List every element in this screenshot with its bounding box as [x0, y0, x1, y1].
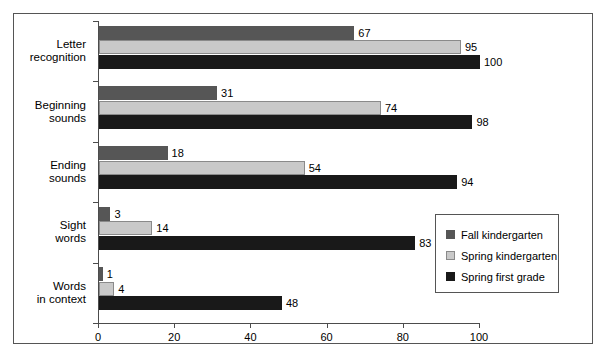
- bar-value-label: 98: [476, 115, 488, 129]
- bar-group: Wordsin context1448: [98, 263, 479, 323]
- x-tick-label: 20: [154, 331, 194, 343]
- bar-value-label: 74: [385, 101, 397, 115]
- x-tick-label: 40: [230, 331, 270, 343]
- x-tick: [403, 323, 404, 328]
- legend-label: Spring first grade: [461, 271, 545, 283]
- legend-item[interactable]: Fall kindergarten: [446, 224, 558, 245]
- bar[interactable]: [99, 55, 480, 69]
- x-tick-label: 60: [307, 331, 347, 343]
- category-label: Letterrecognition: [0, 38, 86, 64]
- bar[interactable]: [99, 296, 282, 310]
- category-label: Wordsin context: [0, 280, 86, 306]
- bar[interactable]: [99, 146, 168, 160]
- bar[interactable]: [99, 236, 415, 250]
- bar[interactable]: [99, 175, 457, 189]
- y-tick: [93, 323, 98, 324]
- x-tick: [174, 323, 175, 328]
- bar[interactable]: [99, 221, 152, 235]
- category-label: Beginningsounds: [0, 99, 86, 125]
- bar[interactable]: [99, 101, 381, 115]
- bar[interactable]: [99, 26, 354, 40]
- bar-value-label: 94: [461, 175, 473, 189]
- bar-value-label: 95: [465, 40, 477, 54]
- legend-label: Fall kindergarten: [461, 229, 543, 241]
- category-label: Sightwords: [0, 219, 86, 245]
- legend-swatch-spring-kindergarten: [446, 251, 455, 260]
- bar-value-label: 1: [107, 267, 113, 281]
- x-tick-label: 80: [383, 331, 423, 343]
- bar-value-label: 4: [118, 282, 124, 296]
- bar-group: Sightwords31483: [98, 202, 479, 262]
- bar-value-label: 14: [156, 221, 168, 235]
- bar-value-label: 3: [114, 207, 120, 221]
- bar-value-label: 18: [172, 146, 184, 160]
- bar[interactable]: [99, 161, 305, 175]
- legend-label: Spring kindergarten: [461, 250, 557, 262]
- x-tick-label: 100: [459, 331, 499, 343]
- bar[interactable]: [99, 115, 472, 129]
- legend-swatch-spring-first-grade: [446, 272, 455, 281]
- bar-value-label: 31: [221, 86, 233, 100]
- bar[interactable]: [99, 267, 103, 281]
- bar-value-label: 67: [358, 26, 370, 40]
- bar-value-label: 100: [484, 55, 502, 69]
- bar[interactable]: [99, 282, 114, 296]
- x-tick: [479, 323, 480, 328]
- legend-item[interactable]: Spring kindergarten: [446, 245, 558, 266]
- legend-item[interactable]: Spring first grade: [446, 266, 558, 287]
- bar[interactable]: [99, 40, 461, 54]
- bar-value-label: 83: [419, 236, 431, 250]
- bar-value-label: 54: [309, 161, 321, 175]
- x-tick: [98, 323, 99, 328]
- category-label: Endingsounds: [0, 159, 86, 185]
- bar-group: Endingsounds185494: [98, 142, 479, 202]
- bar-group: Beginningsounds317498: [98, 81, 479, 141]
- x-axis-line: [98, 323, 479, 324]
- x-tick: [327, 323, 328, 328]
- bar-group: Letterrecognition6795100: [98, 21, 479, 81]
- chart-figure: 020406080100 Letterrecognition6795100Beg…: [13, 13, 593, 344]
- x-tick: [250, 323, 251, 328]
- chart-legend: Fall kindergarten Spring kindergarten Sp…: [435, 214, 559, 293]
- bar[interactable]: [99, 86, 217, 100]
- legend-swatch-fall-kindergarten: [446, 230, 455, 239]
- bar-value-label: 48: [286, 296, 298, 310]
- bar[interactable]: [99, 207, 110, 221]
- plot-area: 020406080100 Letterrecognition6795100Beg…: [98, 21, 479, 323]
- x-tick-label: 0: [78, 331, 118, 343]
